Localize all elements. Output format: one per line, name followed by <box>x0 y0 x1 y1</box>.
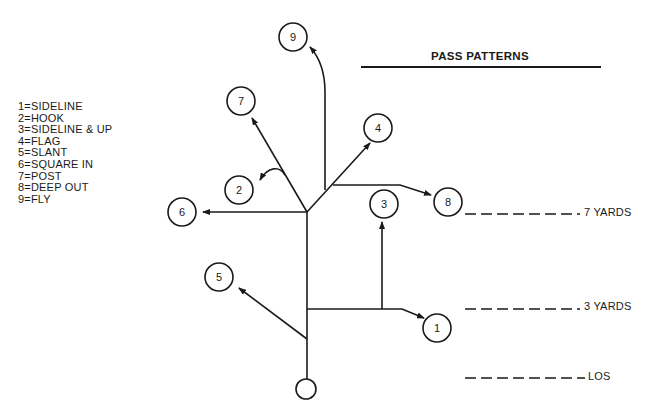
route-post <box>252 118 307 212</box>
marker-number-6: 6 <box>179 206 185 218</box>
marker-number-4: 4 <box>375 122 381 134</box>
marker-number-1: 1 <box>434 322 440 334</box>
route-flag <box>307 143 370 212</box>
route-sideline <box>307 309 424 318</box>
marker-number-9: 9 <box>290 31 296 43</box>
receiver-start-circle <box>296 379 316 399</box>
marker-number-2: 2 <box>236 184 242 196</box>
route-tree-diagram: 1 2 3 4 5 6 7 8 9 <box>0 0 651 418</box>
marker-number-5: 5 <box>216 271 222 283</box>
marker-number-3: 3 <box>381 198 387 210</box>
route-slant <box>239 288 307 339</box>
route-fly <box>310 47 325 190</box>
marker-number-8: 8 <box>445 196 451 208</box>
route-hook <box>260 169 285 180</box>
marker-number-7: 7 <box>238 95 244 107</box>
